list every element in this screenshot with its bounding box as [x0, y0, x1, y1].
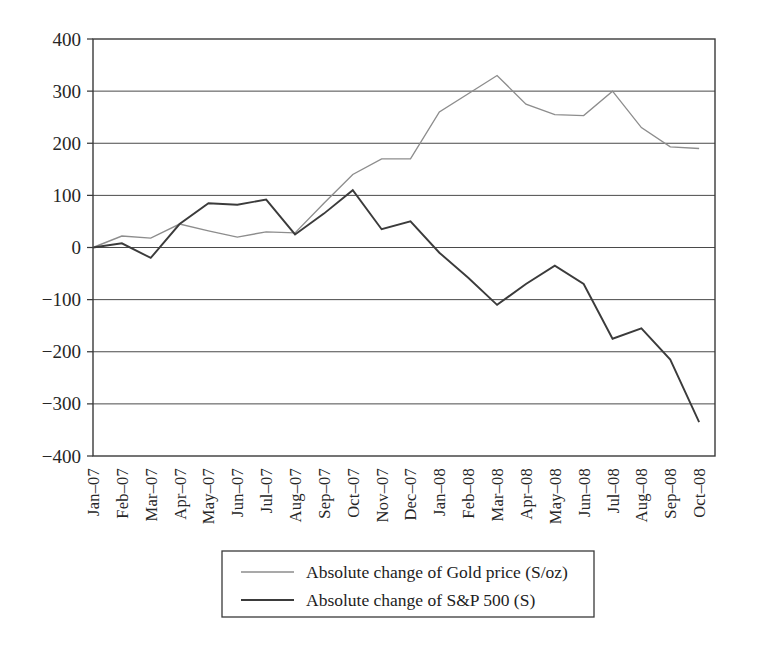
x-tick-label: Aug–07 — [286, 468, 305, 522]
y-tick-label: −400 — [42, 446, 81, 467]
legend-label-sp500: Absolute change of S&P 500 (S) — [306, 590, 535, 610]
x-tick-label: Jun–08 — [575, 468, 594, 517]
y-tick-label: 100 — [53, 185, 82, 206]
page-corner-artifact — [748, 526, 750, 536]
x-tick-label: Jan–08 — [430, 468, 449, 516]
x-tick-label: Mar–07 — [142, 468, 161, 521]
line-chart: 4003002001000−100−200−300−400 Jan–07Feb–… — [0, 0, 769, 649]
legend-label-gold: Absolute change of Gold price (S/oz) — [306, 562, 568, 582]
x-tick-label: Apr–07 — [171, 468, 190, 520]
x-tick-label: Feb–07 — [113, 468, 132, 519]
x-axis-tick-labels: Jan–07Feb–07Mar–07Apr–07May–07Jun–07Jul–… — [84, 468, 709, 524]
x-tick-label: Apr–08 — [517, 468, 536, 520]
x-tick-label: Feb–08 — [459, 468, 478, 519]
x-tick-label: Jan–07 — [84, 468, 103, 516]
y-tick-label: −200 — [42, 341, 81, 362]
x-tick-label: Jun–07 — [228, 468, 247, 517]
x-tick-label: Dec–07 — [401, 468, 420, 521]
x-tick-label: Sep–08 — [661, 468, 680, 519]
x-tick-label: Oct–08 — [690, 468, 709, 518]
y-tick-label: 200 — [53, 133, 82, 154]
x-tick-label: Aug–08 — [632, 468, 651, 522]
x-tick-label: May–08 — [546, 468, 565, 524]
x-tick-label: May–07 — [199, 468, 218, 524]
y-axis-tick-labels: 4003002001000−100−200−300−400 — [42, 29, 81, 467]
y-tick-label: 400 — [53, 29, 82, 50]
x-tick-label: Jul–08 — [604, 468, 623, 513]
y-tick-label: −300 — [42, 393, 81, 414]
x-tick-label: Oct–07 — [344, 468, 363, 518]
chart-figure: 4003002001000−100−200−300−400 Jan–07Feb–… — [0, 0, 769, 649]
y-tick-label: 0 — [72, 237, 82, 258]
y-tick-label: 300 — [53, 81, 82, 102]
x-tick-label: Mar–08 — [488, 468, 507, 521]
x-tick-label: Nov–07 — [373, 468, 392, 522]
x-tick-label: Sep–07 — [315, 468, 334, 519]
x-tick-label: Jul–07 — [257, 468, 276, 513]
y-tick-label: −100 — [42, 289, 81, 310]
